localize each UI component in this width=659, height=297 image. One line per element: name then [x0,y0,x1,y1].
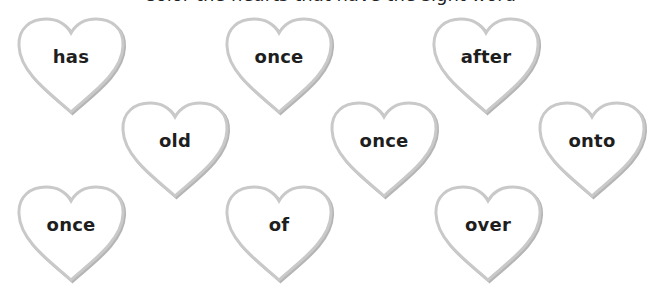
heart-once[interactable]: once [222,16,336,116]
heart-once[interactable]: once [327,100,441,200]
sight-word: once [327,130,441,151]
instructions-text: Color the hearts that have the sight wor… [0,0,659,5]
sight-word: over [431,214,545,235]
sight-word: of [222,214,336,235]
heart-over[interactable]: over [431,184,545,284]
sight-word: after [429,46,543,67]
heart-after[interactable]: after [429,16,543,116]
heart-has[interactable]: has [14,16,128,116]
heart-onto[interactable]: onto [535,100,649,200]
sight-word: once [14,214,128,235]
heart-old[interactable]: old [118,100,232,200]
sight-word: old [118,130,232,151]
heart-once[interactable]: once [14,184,128,284]
sight-word: has [14,46,128,67]
sight-word: onto [535,130,649,151]
heart-of[interactable]: of [222,184,336,284]
sight-word: once [222,46,336,67]
